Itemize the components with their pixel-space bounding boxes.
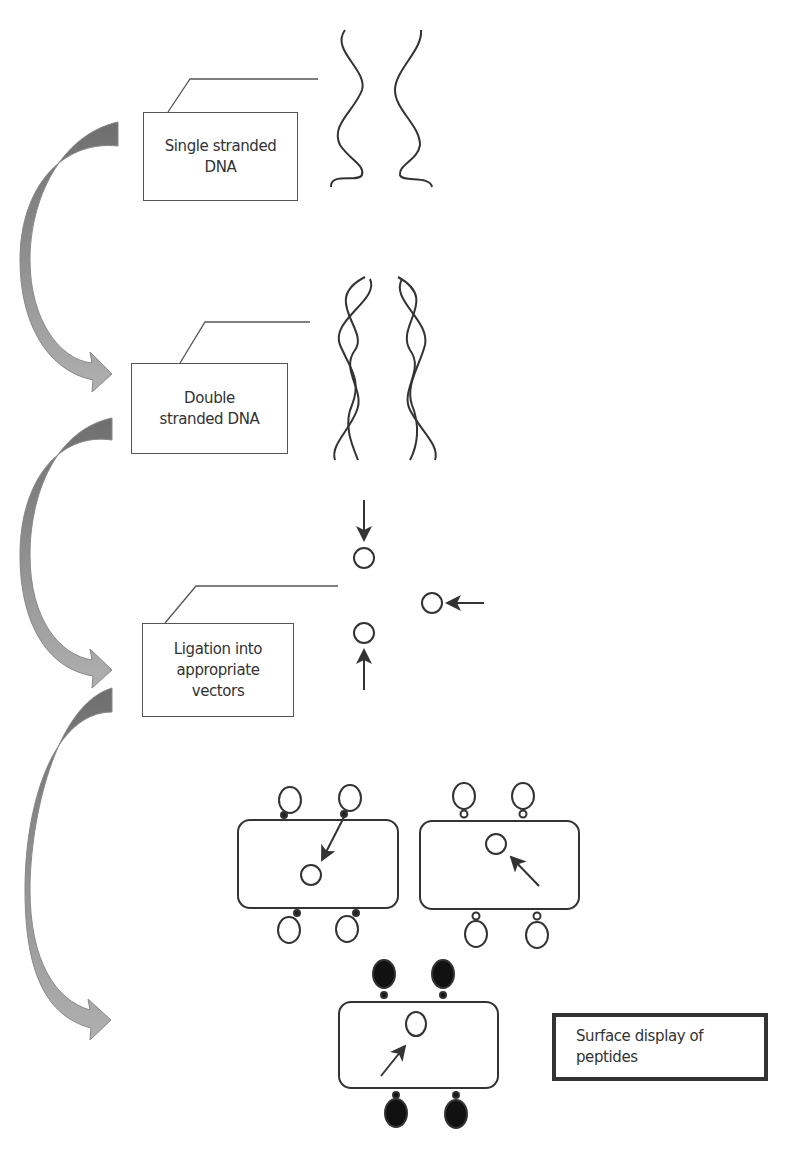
step-label-single-stranded-dna: Single stranded DNA [143, 112, 298, 201]
label-line: peptides [576, 1047, 703, 1068]
label-line: Ligation into [174, 639, 262, 660]
flow-arrow-3-icon [25, 688, 112, 1040]
single-strand-dna-icon [331, 30, 432, 187]
flow-arrow-1-icon [20, 122, 118, 392]
label-line: DNA [165, 157, 277, 178]
step-label-double-stranded-dna: Double stranded DNA [131, 363, 288, 454]
label-line: stranded DNA [160, 409, 260, 430]
label-line: vectors [174, 681, 262, 702]
label-line: appropriate [174, 660, 262, 681]
bacterial-cell-2-icon [420, 783, 579, 948]
vector-ligation-icon [354, 500, 484, 690]
step-label-ligation: Ligation into appropriate vectors [142, 623, 294, 717]
label-line: Surface display of [576, 1026, 703, 1047]
bacterial-cell-1-icon [238, 785, 398, 943]
display-cell-icon [339, 960, 498, 1128]
label-line: Double [160, 388, 260, 409]
double-strand-dna-icon [334, 277, 436, 460]
label-line: Single stranded [165, 136, 277, 157]
diagram-canvas [0, 0, 789, 1150]
step-label-surface-display: Surface display of peptides [552, 1013, 768, 1081]
flow-arrow-2-icon [20, 418, 112, 688]
